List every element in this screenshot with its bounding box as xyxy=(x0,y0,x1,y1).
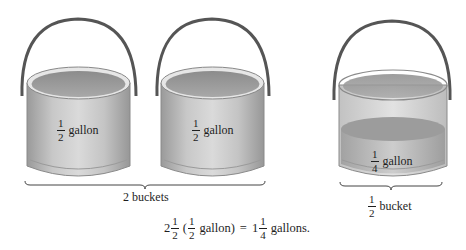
bucket-3-label: 1 4 gallon xyxy=(371,149,413,174)
fraction: 1 2 xyxy=(368,194,376,219)
bucket-2-label: 1 2 gallon xyxy=(192,118,234,143)
fraction: 1 4 xyxy=(371,149,379,174)
water-surface xyxy=(341,117,445,141)
half-bucket-label: 1 2 bucket xyxy=(368,194,412,219)
brace-half-bucket xyxy=(340,182,442,190)
bucket-1-label: 1 2 gallon xyxy=(57,118,99,143)
fraction: 1 4 xyxy=(259,216,267,241)
two-buckets-label: 2 buckets xyxy=(123,190,169,205)
brace-2-buckets xyxy=(25,181,265,189)
fraction: 1 2 xyxy=(192,118,200,143)
bucket-2 xyxy=(157,19,269,176)
fraction: 1 2 xyxy=(171,216,179,241)
fraction: 1 2 xyxy=(188,216,196,241)
fraction: 1 2 xyxy=(57,118,65,143)
equation: 2 1 2 ( 1 2 gallon) = 1 1 4 gallons. xyxy=(164,216,310,241)
bucket-1 xyxy=(22,19,136,176)
